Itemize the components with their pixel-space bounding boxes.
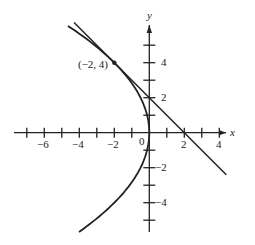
y-tick-label: −2 (155, 161, 167, 173)
point-label: (−2, 4) (78, 58, 108, 71)
origin-label: 0 (139, 135, 145, 147)
y-axis-label: y (146, 9, 152, 21)
x-axis-label: x (229, 126, 235, 138)
y-tick-label: −4 (155, 196, 167, 208)
x-tick-label: 2 (181, 138, 187, 150)
x-tick-label: −4 (72, 138, 84, 150)
x-tick-label: 4 (216, 138, 222, 150)
y-tick-label: 2 (161, 91, 167, 103)
x-tick-label: −2 (107, 138, 119, 150)
y-tick-label: 4 (161, 56, 167, 68)
x-tick-label: −6 (37, 138, 49, 150)
tangent-point (112, 61, 116, 65)
plot-area: x y 0 (−2, 4) −6 −4 −2 2 4 4 2 −2 −4 (0, 0, 255, 245)
y-arrow-icon (147, 25, 152, 33)
graph: x y 0 (−2, 4) −6 −4 −2 2 4 4 2 −2 −4 (0, 0, 255, 245)
x-arrow-icon (219, 130, 226, 135)
